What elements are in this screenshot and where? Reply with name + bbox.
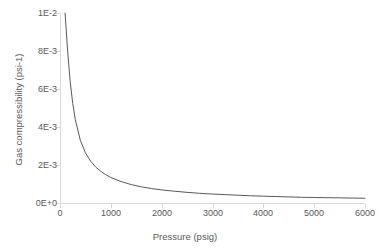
y-axis-title: Gas compressibility (psi-1) [13,15,24,205]
x-tick-label: 1000 [86,208,136,218]
x-tick-label: 2000 [137,208,187,218]
x-tick-label: 3000 [188,208,238,218]
x-tick-label: 4000 [238,208,288,218]
x-axis-title: Pressure (psig) [0,231,370,242]
y-axis-line [60,13,61,204]
x-tick-label: 6000 [340,208,380,218]
x-tick-label: 5000 [289,208,339,218]
x-tick-label: 0 [35,208,85,218]
